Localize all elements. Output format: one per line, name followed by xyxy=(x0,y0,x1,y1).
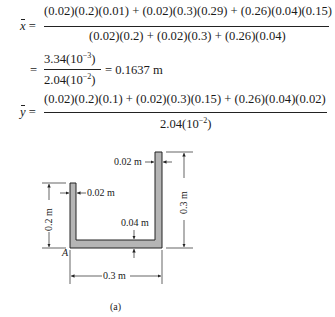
width-label: 0.3 m xyxy=(103,270,126,281)
right-flange-thickness-label: 0.02 m xyxy=(114,156,142,167)
left-height-label: 0.2 m xyxy=(43,208,54,231)
channel-cross-section-diagram xyxy=(0,0,335,317)
right-height-label: 0.3 m xyxy=(178,191,189,214)
point-a-label: A xyxy=(62,247,68,258)
web-thickness-label: 0.04 m xyxy=(121,217,149,228)
left-flange-thickness-label: 0.02 m xyxy=(87,187,115,198)
figure-caption: (a) xyxy=(110,301,121,312)
